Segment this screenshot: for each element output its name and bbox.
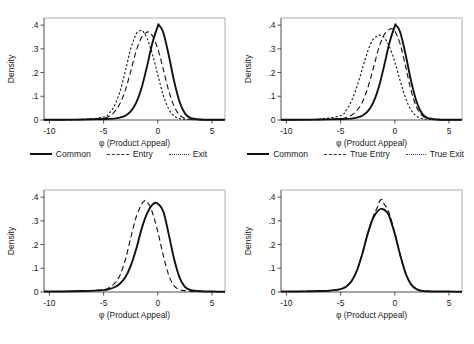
legend-label: Common: [273, 150, 308, 159]
panel-2-legend: Common True Entry True Exit: [237, 150, 474, 159]
line-dotted-icon: [406, 154, 426, 155]
legend-item: Entry: [107, 150, 153, 159]
legend-label: True Exit: [430, 150, 464, 159]
y-tick-label: .1: [268, 91, 275, 101]
line-solid-icon: [30, 153, 52, 155]
x-tick-label: 5: [447, 126, 452, 136]
x-axis-title: φ (Product Appeal): [99, 310, 170, 320]
density-curve: [281, 24, 462, 120]
line-dashed-icon: [107, 154, 129, 155]
x-axis-title: φ (Product Appeal): [99, 138, 170, 148]
x-tick-label: -5: [100, 126, 108, 136]
x-tick-label: -5: [337, 126, 345, 136]
density-curve: [44, 203, 225, 292]
y-axis-title: Density: [243, 54, 253, 83]
panel-4-plot: 0.1.2.3.4-10-505φ (Product Appeal)Densit…: [237, 172, 474, 322]
y-tick-label: 0: [34, 287, 39, 297]
y-tick-label: .2: [268, 240, 275, 250]
y-tick-label: .4: [31, 20, 38, 30]
y-tick-label: .3: [31, 216, 38, 226]
y-tick-label: .3: [31, 44, 38, 54]
density-curve: [44, 200, 225, 291]
y-tick-label: .1: [268, 263, 275, 273]
y-tick-label: 0: [271, 115, 276, 125]
y-tick-label: 0: [271, 287, 276, 297]
y-axis-title: Density: [6, 226, 16, 255]
x-tick-label: 0: [392, 126, 397, 136]
legend-label: Entry: [133, 150, 153, 159]
x-tick-label: -5: [100, 298, 108, 308]
panel-3: 0.1.2.3.4-10-505φ (Product Appeal)Densit…: [0, 172, 237, 344]
y-tick-label: .4: [268, 192, 275, 202]
y-tick-label: .2: [31, 68, 38, 78]
x-tick-label: 0: [392, 298, 397, 308]
panel-4: 0.1.2.3.4-10-505φ (Product Appeal)Densit…: [237, 172, 474, 344]
y-tick-label: .2: [268, 68, 275, 78]
x-tick-label: -5: [337, 298, 345, 308]
x-tick-label: 5: [210, 298, 215, 308]
y-tick-label: 0: [34, 115, 39, 125]
x-axis-title: φ (Product Appeal): [336, 310, 407, 320]
panel-1-legend: Common Entry Exit: [0, 150, 237, 159]
x-axis-title: φ (Product Appeal): [336, 138, 407, 148]
y-tick-label: .1: [31, 91, 38, 101]
legend-item: True Exit: [406, 150, 464, 159]
y-tick-label: .4: [31, 192, 38, 202]
x-tick-label: 0: [155, 298, 160, 308]
x-tick-label: -10: [280, 126, 293, 136]
x-tick-label: -10: [43, 126, 56, 136]
line-solid-icon: [247, 153, 269, 155]
panel-2-axes: 0.1.2.3.4-10-505φ (Product Appeal)Densit…: [243, 18, 462, 148]
panel-3-plot: 0.1.2.3.4-10-505φ (Product Appeal)Densit…: [0, 172, 237, 322]
panel-1: 0.1.2.3.4-10-505φ (Product Appeal)Densit…: [0, 0, 237, 172]
legend-item: True Entry: [324, 150, 390, 159]
x-tick-label: -10: [43, 298, 56, 308]
y-axis-title: Density: [6, 54, 16, 83]
density-curve: [44, 24, 225, 120]
x-tick-label: -10: [280, 298, 293, 308]
y-axis-title: Density: [243, 226, 253, 255]
y-tick-label: .1: [31, 263, 38, 273]
panel-2-plot: 0.1.2.3.4-10-505φ (Product Appeal)Densit…: [237, 0, 474, 150]
panel-3-axes: 0.1.2.3.4-10-505φ (Product Appeal)Densit…: [6, 190, 225, 320]
x-tick-label: 5: [447, 298, 452, 308]
legend-item: Exit: [169, 150, 207, 159]
x-tick-label: 0: [155, 126, 160, 136]
legend-label: Exit: [193, 150, 207, 159]
y-tick-label: .4: [268, 20, 275, 30]
legend-item: Common: [30, 150, 91, 159]
density-curve: [281, 209, 462, 292]
line-dotted-icon: [169, 154, 189, 155]
y-tick-label: .3: [268, 44, 275, 54]
legend-label: Common: [56, 150, 91, 159]
line-dashed-icon: [324, 154, 346, 155]
y-tick-label: .2: [31, 240, 38, 250]
panel-1-axes: 0.1.2.3.4-10-505φ (Product Appeal)Densit…: [6, 18, 225, 148]
panel-1-plot: 0.1.2.3.4-10-505φ (Product Appeal)Densit…: [0, 0, 237, 150]
legend-item: Common: [247, 150, 308, 159]
panel-4-axes: 0.1.2.3.4-10-505φ (Product Appeal)Densit…: [243, 190, 462, 320]
legend-label: True Entry: [350, 150, 390, 159]
panel-2: 0.1.2.3.4-10-505φ (Product Appeal)Densit…: [237, 0, 474, 172]
y-tick-label: .3: [268, 216, 275, 226]
density-figure: 0.1.2.3.4-10-505φ (Product Appeal)Densit…: [0, 0, 474, 344]
density-curve: [281, 199, 462, 291]
x-tick-label: 5: [210, 126, 215, 136]
